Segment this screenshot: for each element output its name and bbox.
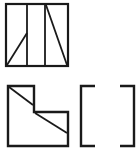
sketch-canvas	[0, 0, 140, 162]
canvas-background	[0, 0, 140, 162]
orthographic-sketch-svg	[0, 0, 140, 162]
